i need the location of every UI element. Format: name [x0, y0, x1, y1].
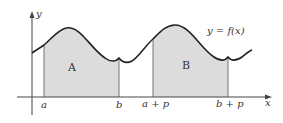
region-a-shading: [44, 28, 119, 97]
tick-b: b: [116, 99, 122, 110]
y-axis-arrow-icon: [30, 11, 35, 18]
region-a-label: A: [67, 61, 77, 74]
tick-b-plus-p: b + p: [216, 98, 244, 109]
x-axis-label: x: [265, 97, 271, 108]
tick-a: a: [41, 99, 47, 110]
tick-a-plus-p: a + p: [142, 98, 170, 109]
y-axis-label: y: [35, 8, 42, 19]
periodic-area-diagram: y x y = f(x) A B a b a + p b + p: [0, 0, 283, 123]
function-label: y = f(x): [206, 25, 245, 36]
region-b-label: B: [182, 59, 190, 72]
